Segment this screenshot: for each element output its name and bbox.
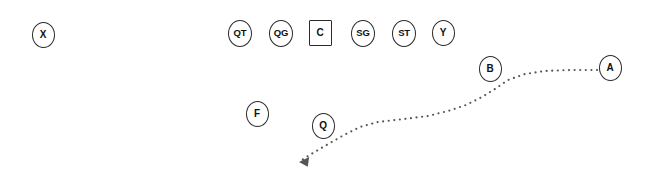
route-dot <box>518 75 520 77</box>
player-label: A <box>606 63 613 73</box>
route-dot <box>448 109 450 111</box>
player-label: ST <box>398 28 410 38</box>
player-label: C <box>316 28 323 38</box>
route-dot <box>335 138 337 140</box>
routes-group <box>299 69 598 167</box>
play-diagram: XQTQGCSGSTYBAFQ <box>0 0 647 178</box>
route-dot <box>562 69 564 71</box>
route-dot <box>513 77 515 79</box>
player-label: X <box>40 30 46 40</box>
player-label: B <box>486 64 493 74</box>
route-dot <box>345 133 347 135</box>
route-dot <box>350 130 352 132</box>
player-label: Q <box>319 121 327 131</box>
route-dot <box>437 112 439 114</box>
route-dot <box>503 82 505 84</box>
player-label: Y <box>440 28 446 38</box>
route-dot <box>540 70 542 72</box>
route-dot <box>479 97 481 99</box>
route-dot <box>494 88 496 90</box>
route-dot <box>596 69 598 71</box>
route-dot <box>585 69 587 71</box>
route-dot <box>302 158 304 160</box>
route-dot <box>382 120 384 122</box>
route-dot <box>590 69 592 71</box>
player-marker-f[interactable]: F <box>246 101 269 127</box>
route-dot <box>399 118 401 120</box>
player-marker-y[interactable]: Y <box>432 20 455 46</box>
route-dot <box>366 124 368 126</box>
route-dot <box>388 120 390 122</box>
route-dot <box>508 79 510 81</box>
route-dot <box>393 119 395 121</box>
route-dot <box>360 126 362 128</box>
player-label: F <box>254 109 260 119</box>
route-dot <box>474 99 476 101</box>
route-dot <box>355 128 357 130</box>
route-dot <box>371 123 373 125</box>
route-dot <box>306 155 308 157</box>
player-marker-x[interactable]: X <box>32 22 55 48</box>
route-dot <box>340 135 342 137</box>
player-marker-c[interactable]: C <box>309 20 332 46</box>
route-arrowhead-icon <box>299 157 309 167</box>
route-dot <box>574 69 576 71</box>
player-marker-a[interactable]: A <box>599 55 622 81</box>
route-dot <box>546 70 548 72</box>
route-dot <box>568 69 570 71</box>
route-dot <box>432 114 434 116</box>
route-dot <box>311 152 313 154</box>
route-dot <box>421 116 423 118</box>
player-marker-qg[interactable]: QG <box>269 20 293 47</box>
route-dot <box>523 73 525 75</box>
route-dot <box>443 111 445 113</box>
route-dot <box>579 69 581 71</box>
route-dot <box>498 85 500 87</box>
player-label: QG <box>274 28 288 38</box>
route-dot <box>484 94 486 96</box>
route-dot <box>321 147 323 149</box>
route-dot <box>454 108 456 110</box>
route-dot <box>415 116 417 118</box>
route-dot <box>410 117 412 119</box>
route-dot <box>469 102 471 104</box>
route-dot <box>316 149 318 151</box>
player-label: SG <box>356 28 369 38</box>
player-marker-b[interactable]: B <box>479 56 502 82</box>
route-dot <box>377 121 379 123</box>
route-dot <box>326 144 328 146</box>
player-marker-q[interactable]: Q <box>312 113 335 139</box>
route-dot <box>459 106 461 108</box>
player-marker-sg[interactable]: SG <box>351 20 375 47</box>
player-label: QT <box>234 28 247 38</box>
route-dot <box>551 70 553 72</box>
player-marker-qt[interactable]: QT <box>228 20 252 47</box>
route-dot <box>404 118 406 120</box>
route-dot <box>557 69 559 71</box>
route-dot <box>489 91 491 93</box>
route-dot <box>427 115 429 117</box>
route-dot <box>529 72 531 74</box>
route-dot <box>534 71 536 73</box>
motion-path-A <box>299 69 598 167</box>
player-marker-st[interactable]: ST <box>392 20 416 47</box>
route-dot <box>331 141 333 143</box>
route-dot <box>464 104 466 106</box>
